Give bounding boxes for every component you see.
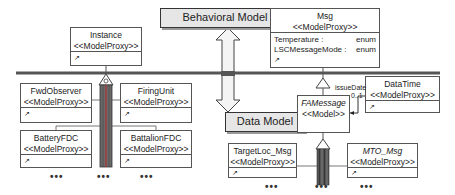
pin-icon: ↗ — [21, 108, 91, 119]
ellipsis-more-classes: ••• — [140, 171, 154, 182]
class-battalion-fdc[interactable]: BattalionFDC <<ModelProxy>> ↗ — [120, 130, 192, 168]
class-target-loc-msg[interactable]: TargetLoc_Msg <<ModelProxy>> ↗ — [228, 143, 297, 178]
ellipsis-more-classes: ••• — [265, 181, 279, 192]
class-name: BattalionFDC — [121, 133, 191, 144]
class-name: BatteryFDC — [21, 133, 91, 144]
class-header: Msg <<ModelProxy>> — [271, 9, 379, 33]
class-header: FAMessage <<Model>> — [298, 96, 349, 119]
pin-icon: ↗ — [271, 55, 379, 65]
attribute-type: enum — [356, 45, 376, 55]
class-header: FiringUnit <<ModelProxy>> — [121, 84, 191, 108]
class-fa-message[interactable]: FAMessage <<Model>> — [297, 95, 350, 133]
class-header: MTO_Msg <<ModelProxy>> — [348, 144, 417, 168]
association-multiplicity: 0..1 — [351, 92, 363, 99]
class-stereotype: <<ModelProxy>> — [121, 97, 191, 108]
class-battery-fdc[interactable]: BatteryFDC <<ModelProxy>> ↗ — [20, 130, 92, 168]
class-stereotype: <<ModelProxy>> — [271, 22, 379, 33]
generalization-arrow-msg — [316, 78, 330, 88]
class-stereotype: <<ModelProxy>> — [21, 97, 91, 108]
attribute-name: Temperature : — [274, 35, 323, 45]
attribute-name: LSCMessageMode : — [274, 45, 346, 55]
pin-icon: ↗ — [121, 108, 191, 119]
pin-icon: ↗ — [348, 168, 417, 178]
class-name: Msg — [271, 11, 379, 22]
class-firing-unit[interactable]: FiringUnit <<ModelProxy>> ↗ — [120, 83, 192, 123]
class-msg[interactable]: Msg <<ModelProxy>> Temperature : enum LS… — [270, 8, 380, 68]
attribute-row: Temperature : enum — [274, 35, 376, 45]
class-mto-msg[interactable]: MTO_Msg <<ModelProxy>> ↗ — [347, 143, 418, 178]
attribute-row: LSCMessageMode : enum — [274, 45, 376, 55]
class-name: DataTime — [366, 79, 439, 90]
class-stereotype: <<ModelProxy>> — [229, 157, 296, 168]
generalization-arrow-famessage — [316, 139, 330, 149]
ellipsis-more-classes: ••• — [50, 171, 64, 182]
class-header: TargetLoc_Msg <<ModelProxy>> — [229, 144, 296, 168]
class-header: DataTime <<ModelProxy>> — [366, 77, 439, 101]
ellipsis-more-classes: ••• — [97, 171, 111, 182]
class-header: FwdObserver <<ModelProxy>> — [21, 84, 91, 108]
class-stereotype: <<Model>> — [298, 109, 349, 120]
ellipsis-more-classes: ••• — [315, 181, 329, 192]
class-stereotype: <<ModelProxy>> — [121, 144, 191, 155]
class-header: BattalionFDC <<ModelProxy>> — [121, 131, 191, 155]
pin-icon: ↗ — [366, 101, 439, 112]
layer-double-arrow — [216, 28, 240, 112]
class-stereotype: <<ModelProxy>> — [366, 90, 439, 101]
class-instance[interactable]: Instance <<ModelProxy>> ↗ — [70, 27, 142, 66]
class-stereotype: <<ModelProxy>> — [71, 41, 141, 52]
class-name: MTO_Msg — [348, 146, 417, 157]
class-name: FAMessage — [298, 98, 349, 109]
class-name: Instance — [71, 30, 141, 41]
ellipsis-more-classes: ••• — [360, 181, 374, 192]
class-name: TargetLoc_Msg — [229, 146, 296, 157]
class-header: Instance <<ModelProxy>> — [71, 28, 141, 52]
behavioral-model-text: Behavioral Model — [183, 11, 268, 23]
class-name: FiringUnit — [121, 86, 191, 97]
association-role: issueDate — [335, 84, 366, 91]
class-fwd-observer[interactable]: FwdObserver <<ModelProxy>> ↗ — [20, 83, 92, 123]
class-header: BatteryFDC <<ModelProxy>> — [21, 131, 91, 155]
class-data-time[interactable]: DataTime <<ModelProxy>> ↗ — [365, 76, 440, 113]
class-attributes: Temperature : enum LSCMessageMode : enum — [271, 33, 379, 55]
data-model-label: Data Model — [225, 112, 305, 132]
data-model-text: Data Model — [237, 115, 293, 127]
pin-icon: ↗ — [71, 52, 141, 63]
attribute-type: enum — [356, 35, 376, 45]
pin-icon: ↗ — [121, 155, 191, 166]
class-name: FwdObserver — [21, 86, 91, 97]
class-stereotype: <<ModelProxy>> — [21, 144, 91, 155]
class-stereotype: <<ModelProxy>> — [348, 157, 417, 168]
pin-icon: ↗ — [229, 168, 296, 178]
pin-icon: ↗ — [21, 155, 91, 166]
